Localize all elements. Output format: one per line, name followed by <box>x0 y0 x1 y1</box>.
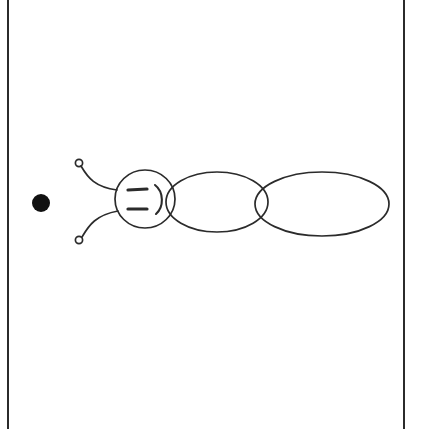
drawing-surface[interactable] <box>0 0 425 429</box>
canvas-background <box>0 0 425 429</box>
drawing-canvas-page[interactable] <box>0 0 425 429</box>
eye-upper-bar <box>128 189 147 190</box>
black-dot[interactable] <box>32 194 50 212</box>
